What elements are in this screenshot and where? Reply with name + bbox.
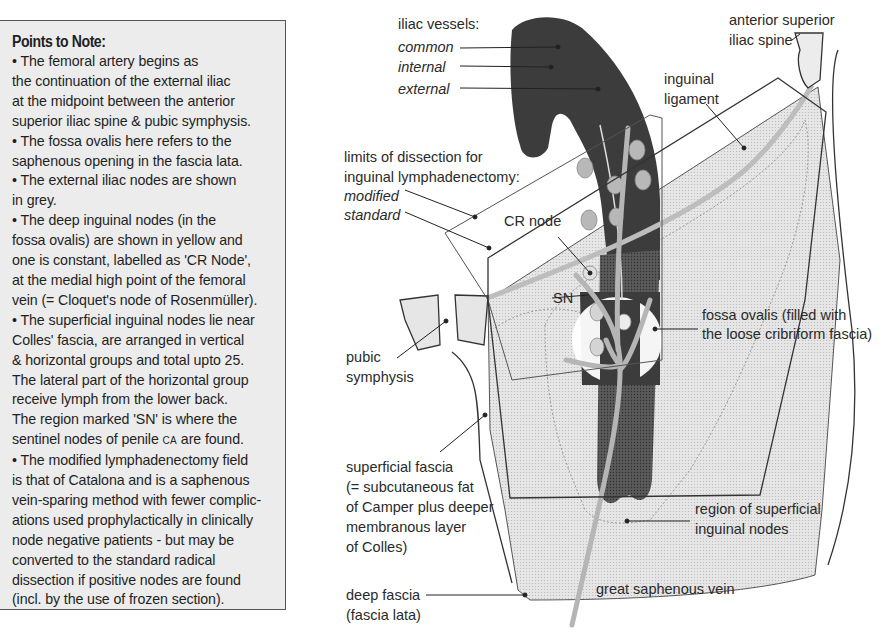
label-iliac-vessels: iliac vessels: xyxy=(398,16,479,32)
label-limits-2: inguinal lymphadenectomy: xyxy=(344,169,520,185)
label-external: external xyxy=(398,81,450,97)
anterior-superior-iliac-spine-bone xyxy=(795,33,823,88)
label-pubic-2: symphysis xyxy=(346,369,414,385)
label-fossa-2: the loose cribriform fascia) xyxy=(702,326,872,342)
label-sup-fascia-3: of Camper plus deeper xyxy=(346,499,494,515)
label-asis-2: iliac spine xyxy=(729,32,793,48)
label-common: common xyxy=(398,39,454,55)
pubic-bone-left xyxy=(400,295,440,350)
label-pubic-1: pubic xyxy=(346,349,381,365)
label-internal: internal xyxy=(398,59,446,75)
label-inguinal-1: inguinal xyxy=(664,71,714,87)
label-sup-fascia-5: of Colles) xyxy=(346,539,407,555)
label-sn: SN xyxy=(553,290,573,306)
label-modified: modified xyxy=(344,188,400,204)
label-standard: standard xyxy=(344,207,401,223)
label-gsv: great saphenous vein xyxy=(596,581,735,597)
label-region-2: inguinal nodes xyxy=(695,521,789,537)
label-cr-node: CR node xyxy=(504,213,561,229)
label-deep-fascia-2: (fascia lata) xyxy=(346,607,421,623)
label-sup-fascia-1: superficial fascia xyxy=(346,459,454,475)
label-fossa-1: fossa ovalis (filled with xyxy=(702,307,846,323)
label-region-1: region of superficial xyxy=(695,501,821,517)
pubic-bone-right xyxy=(455,295,488,345)
label-sup-fascia-4: membranous layer xyxy=(346,519,466,535)
label-inguinal-2: ligament xyxy=(664,91,719,107)
label-limits-1: limits of dissection for xyxy=(344,149,483,165)
label-asis-1: anterior superior xyxy=(729,12,835,28)
label-deep-fascia-1: deep fascia xyxy=(346,587,421,603)
inguinal-anatomy-diagram: iliac vessels: common internal external … xyxy=(0,0,894,639)
label-sup-fascia-2: (= subcutaneous fat xyxy=(346,479,474,495)
